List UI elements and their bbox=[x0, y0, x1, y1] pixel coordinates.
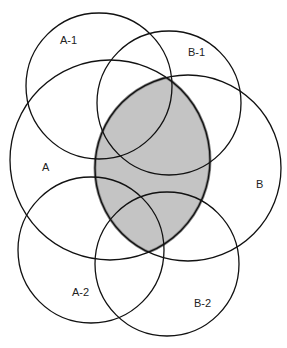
label-b: B bbox=[256, 178, 263, 190]
label-a-2: A-2 bbox=[72, 286, 89, 298]
label-a: A bbox=[42, 161, 50, 173]
venn-diagram: A-1B-1ABA-2B-2 bbox=[0, 0, 287, 348]
label-b-2: B-2 bbox=[194, 297, 211, 309]
label-a-1: A-1 bbox=[60, 34, 77, 46]
label-b-1: B-1 bbox=[188, 46, 205, 58]
